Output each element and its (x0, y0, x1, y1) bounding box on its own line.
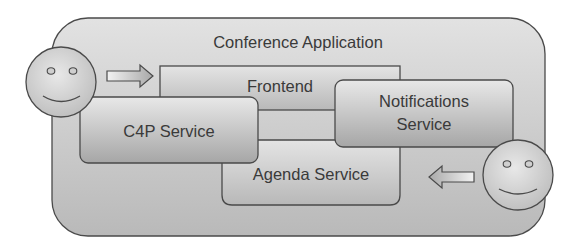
frontend-label: Frontend (247, 77, 313, 95)
application-title: Conference Application (213, 33, 383, 51)
notifications-service-label-line1: Notifications (379, 92, 469, 110)
smiley-face-icon (483, 140, 553, 210)
notifications-service-box: Notifications Service (335, 80, 513, 147)
c4p-service-label: C4P Service (123, 122, 214, 140)
notifications-service-label-line2: Service (396, 115, 451, 133)
c4p-service-box: C4P Service (80, 97, 258, 163)
diagram-canvas: Conference Application Agenda Service Fr… (0, 0, 579, 251)
agenda-service-label: Agenda Service (253, 165, 370, 183)
smiley-face-icon (26, 47, 96, 117)
